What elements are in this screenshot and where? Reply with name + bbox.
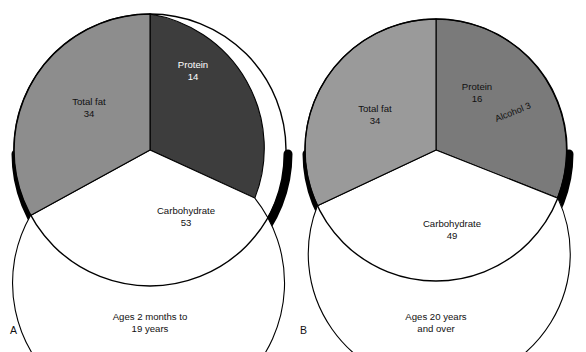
pie-b-caption-line2: and over [417,323,455,334]
pie-a-label-protein: Protein [178,59,208,70]
pie-b-panel-letter: B [300,324,307,336]
pie-a-value-carbohydrate: 53 [181,217,192,228]
pie-b-value-carbohydrate: 49 [447,230,458,241]
figure-root: Protein 14 Carbohydrate 53 Total fat 34 … [0,0,586,352]
pie-a-caption-line2: 19 years [132,323,169,334]
pie-chart-panel-b: Protein 16 Alcohol 3 Carbohydrate 49 Tot… [300,19,570,352]
pie-b-value-protein: 16 [472,93,483,104]
pie-chart-panel-a: Protein 14 Carbohydrate 53 Total fat 34 … [10,14,288,352]
pie-b-label-carbohydrate: Carbohydrate [423,218,481,229]
pie-a-value-protein: 14 [188,71,199,82]
pie-b-caption-line1: Ages 20 years [405,311,467,322]
pie-b-label-protein: Protein [462,81,492,92]
pie-charts-figure: Protein 14 Carbohydrate 53 Total fat 34 … [0,0,586,352]
pie-a-panel-letter: A [10,324,17,336]
pie-a-value-total-fat: 34 [84,108,95,119]
pie-b-value-total-fat: 34 [370,115,381,126]
pie-b-label-total-fat: Total fat [358,103,392,114]
pie-a-caption-line1: Ages 2 months to [113,311,188,322]
pie-a-label-total-fat: Total fat [72,96,106,107]
pie-a-label-carbohydrate: Carbohydrate [157,205,215,216]
